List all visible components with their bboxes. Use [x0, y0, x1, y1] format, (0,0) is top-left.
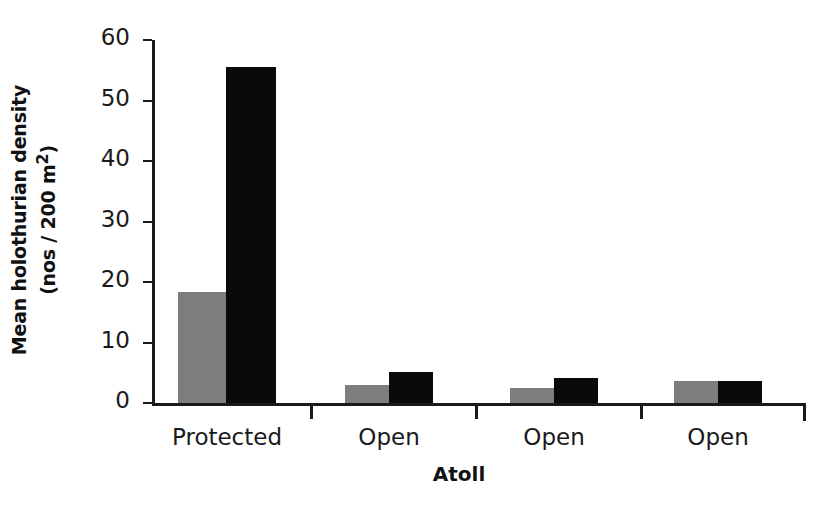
y-axis-title-units-post: ) — [37, 145, 59, 153]
x-tick-separator-1 — [475, 406, 478, 419]
bar-chart: Mean holothurian density (nos / 200 m2) … — [0, 0, 834, 511]
x-axis-title: Atoll — [0, 462, 834, 486]
y-tick-60: 60 — [143, 39, 152, 41]
y-tick-30: 30 — [143, 221, 152, 223]
bar-series-black-2 — [554, 378, 598, 403]
y-axis-title-units-exponent: 2 — [33, 154, 52, 165]
y-tick-label-30: 30 — [84, 208, 130, 231]
x-tick-end — [803, 406, 806, 421]
y-tick-label-50: 50 — [84, 87, 130, 110]
x-axis-label-2: Open — [523, 424, 584, 450]
x-axis-label-1: Open — [358, 424, 419, 450]
y-tick-label-20: 20 — [84, 268, 130, 291]
bar-series-gray-2 — [510, 388, 554, 403]
x-tick-separator-2 — [640, 406, 643, 419]
y-axis-title-line1: Mean holothurian density — [8, 85, 30, 355]
y-tick-label-0: 0 — [84, 389, 130, 412]
y-tick-label-40: 40 — [84, 147, 130, 170]
y-axis-line — [152, 40, 155, 406]
bar-series-gray-1 — [345, 385, 389, 403]
bar-series-black-1 — [389, 372, 433, 403]
y-axis-title: Mean holothurian density (nos / 200 m2) — [4, 30, 64, 410]
y-tick-10: 10 — [143, 342, 152, 344]
y-tick-label-10: 10 — [84, 329, 130, 352]
bar-series-black-0 — [226, 67, 276, 403]
plot-area: 0102030405060 ProtectedOpenOpenOpen — [152, 40, 806, 406]
x-axis-label-3: Open — [687, 424, 748, 450]
bar-series-gray-3 — [674, 381, 718, 403]
y-tick-20: 20 — [143, 281, 152, 283]
bar-series-black-3 — [718, 381, 762, 403]
y-tick-50: 50 — [143, 100, 152, 102]
y-tick-0: 0 — [143, 402, 152, 404]
y-tick-40: 40 — [143, 160, 152, 162]
y-axis-title-units-pre: (nos / 200 m — [37, 164, 59, 294]
x-tick-separator-0 — [310, 406, 313, 419]
x-axis-line — [152, 403, 806, 406]
x-axis-title-text: Atoll — [433, 462, 486, 486]
x-axis-label-0: Protected — [172, 424, 282, 450]
y-axis-title-line2: (nos / 200 m2) — [31, 85, 60, 355]
y-tick-label-60: 60 — [84, 26, 130, 49]
bar-series-gray-0 — [178, 292, 226, 403]
